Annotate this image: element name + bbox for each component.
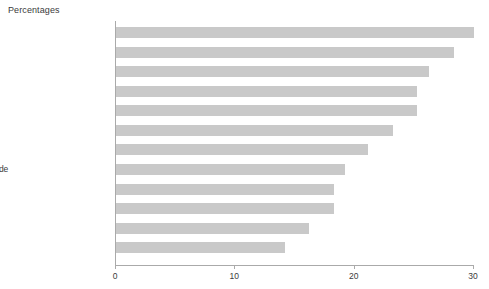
bar-chart: Percentages North WestGreater LondonNort… — [0, 0, 489, 289]
plot-area: North WestGreater LondonNorthNorthern Ir… — [0, 0, 489, 289]
x-tick-label: 0 — [100, 271, 130, 282]
bar-row: North West — [0, 24, 489, 44]
bar — [116, 144, 368, 155]
bar-row: West Midlands — [0, 141, 489, 161]
bar — [116, 164, 345, 175]
x-axis-line — [115, 265, 473, 266]
bar — [116, 242, 285, 253]
bar — [116, 86, 417, 97]
bar-row: South West — [0, 220, 489, 240]
x-tick-mark — [234, 265, 235, 269]
x-tick-mark — [473, 265, 474, 269]
bar-row: Wales — [0, 181, 489, 201]
x-tick-label: 30 — [458, 271, 488, 282]
bar — [116, 105, 417, 116]
x-tick-label: 10 — [219, 271, 249, 282]
bar — [116, 125, 393, 136]
bar — [116, 47, 454, 58]
bar — [116, 203, 334, 214]
bar — [116, 66, 429, 77]
x-tick-label: 20 — [339, 271, 369, 282]
x-tick-mark — [115, 265, 116, 269]
bar-row: East Midlands — [0, 102, 489, 122]
bar — [116, 223, 309, 234]
bar-row: North — [0, 63, 489, 83]
x-tick-mark — [354, 265, 355, 269]
bar — [116, 184, 334, 195]
bar-row: Greater London — [0, 44, 489, 64]
bar-row: East Anglia — [0, 239, 489, 259]
bar-row: Northern Ireland — [0, 83, 489, 103]
category-label-text: Yorkshire & Humberside — [0, 164, 8, 175]
bar — [116, 27, 474, 38]
bar-row: Rest of South East — [0, 200, 489, 220]
bar-row: Yorkshire & Humberside — [0, 161, 489, 181]
bar-row: Scotland — [0, 122, 489, 142]
